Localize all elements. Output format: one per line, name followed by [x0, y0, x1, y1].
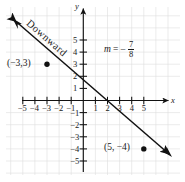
x-tick-label-1: 1: [93, 104, 97, 113]
y-tick-label-4: 4: [73, 48, 77, 57]
y-tick-label-1: 1: [73, 84, 77, 93]
y-tick-label-2: 2: [73, 72, 77, 81]
x-tick-label-2: 2: [106, 104, 110, 113]
line-arrowhead-upper-left: [13, 18, 23, 29]
point-label-a: (−3,3): [7, 59, 31, 69]
y-tick-label--1: −1: [71, 109, 80, 118]
y-tick-label--2: −2: [71, 121, 80, 130]
slope-variable: m: [104, 45, 111, 55]
slope-annotation: m = − 7 8: [104, 40, 134, 59]
coordinate-plane-figure: y x −5 −4 −3 −2 −1 1 2 3 4 5 5 4 3 2 1 −…: [0, 0, 185, 182]
x-axis-label: x: [171, 96, 175, 105]
point-marker-a: [44, 61, 49, 66]
plotted-line: [16, 22, 169, 155]
y-tick-label--5: −5: [71, 157, 80, 166]
fraction-denominator: 8: [128, 50, 134, 59]
x-tick-label--2: −2: [54, 104, 63, 113]
slope-fraction: 7 8: [128, 40, 134, 59]
line-arrowhead-lower-right: [163, 146, 173, 157]
fraction-numerator: 7: [128, 40, 134, 49]
x-tick-label-4: 4: [130, 104, 134, 113]
equals-sign: =: [113, 45, 118, 55]
y-tick-label--3: −3: [71, 133, 80, 142]
x-tick-label--5: −5: [18, 104, 27, 113]
point-label-b: (5, −4): [104, 143, 130, 153]
x-tick-label--4: −4: [30, 104, 39, 113]
y-tick-label-5: 5: [73, 36, 77, 45]
y-tick-label-3: 3: [73, 60, 77, 69]
x-tick-label--3: −3: [42, 104, 51, 113]
point-marker-b: [141, 146, 146, 151]
y-tick-label--4: −4: [71, 145, 80, 154]
x-tick-label-3: 3: [118, 104, 122, 113]
x-tick-label-5: 5: [142, 104, 146, 113]
y-axis-label: y: [75, 2, 79, 11]
minus-sign: −: [120, 45, 126, 55]
